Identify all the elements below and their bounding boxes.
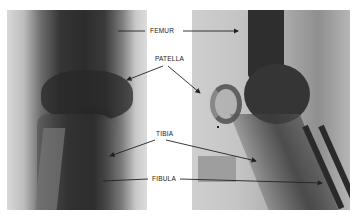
label-arrows [0,0,358,222]
label-fibula: FIBULA [152,175,176,182]
label-tibia: TIBIA [156,130,173,137]
label-patella: PATELLA [155,55,184,62]
label-femur: FEMUR [150,27,174,34]
